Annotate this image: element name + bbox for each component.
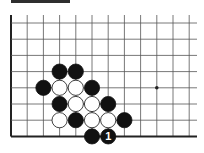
white-stone[interactable] [68,96,83,111]
white-stone[interactable] [52,113,67,128]
white-stone[interactable] [68,80,83,95]
black-stone[interactable]: 1 [101,129,116,144]
white-stone-disc [52,80,67,95]
black-stone[interactable] [84,80,99,95]
white-stone-disc [68,96,83,111]
white-stone[interactable] [84,113,99,128]
black-stone[interactable] [52,96,67,111]
white-stone-disc [84,96,99,111]
black-stone[interactable] [117,113,132,128]
black-stone-disc [36,80,51,95]
white-stone-disc [68,80,83,95]
black-stone[interactable] [36,80,51,95]
white-stone[interactable] [52,80,67,95]
black-stone-disc [52,64,67,79]
black-stone[interactable] [68,64,83,79]
go-board[interactable]: 1 [0,0,204,153]
white-stone[interactable] [101,113,116,128]
white-stone-disc [84,113,99,128]
black-stone-disc [84,80,99,95]
white-stone[interactable] [84,96,99,111]
white-stone-disc [101,113,116,128]
move-number-label: 1 [105,130,111,142]
black-stone[interactable] [52,64,67,79]
star-points [155,86,159,90]
black-stone-disc [52,96,67,111]
black-stone-disc [101,96,116,111]
black-stone[interactable] [101,96,116,111]
black-stone-disc [68,113,83,128]
black-stone-disc [68,64,83,79]
white-stone-disc [52,113,67,128]
black-stone[interactable] [84,129,99,144]
black-stone[interactable] [68,113,83,128]
star-point [155,86,159,90]
black-stone-disc [117,113,132,128]
black-stone-disc [84,129,99,144]
